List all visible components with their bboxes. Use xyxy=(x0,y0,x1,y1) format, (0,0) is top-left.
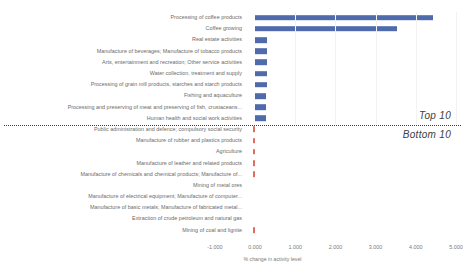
x-axis-label: % change in activity level xyxy=(0,256,465,262)
bar-row: Mining of coal and lignite xyxy=(0,225,465,236)
category-label: Manufacture of leather and related produ… xyxy=(0,160,248,167)
bar-negative xyxy=(253,138,255,144)
bar-positive xyxy=(255,15,433,21)
top-bottom-divider xyxy=(4,125,461,126)
category-label: Fishing and aquaculture xyxy=(0,92,248,99)
x-axis-label-text: % change in activity level xyxy=(244,256,302,262)
annotation-bottom-10: Bottom 10 xyxy=(403,129,451,140)
bar-row: Extraction of crude petroleum and natura… xyxy=(0,213,465,224)
bar-row: Processing and preserving of meat and pr… xyxy=(0,102,465,113)
bar-row: Manufacture of rubber and plastics produ… xyxy=(0,135,465,146)
bar-row: Arts, entertainment and recreation; Othe… xyxy=(0,57,465,68)
category-label: Manufacture of beverages; Manufacture of… xyxy=(0,48,248,55)
gridline xyxy=(335,12,336,124)
bar-row: Processing of grain mill products, starc… xyxy=(0,79,465,90)
category-label: Manufacture of rubber and plastics produ… xyxy=(0,137,248,144)
bar-row: Real estate activities xyxy=(0,34,465,45)
x-axis: % change in activity level -1.0000.0001.… xyxy=(0,244,465,278)
category-label: Mining of metal ores xyxy=(0,182,248,189)
bar-row: Processing of coffee products xyxy=(0,12,465,23)
bar-row: Manufacture of beverages; Manufacture of… xyxy=(0,46,465,57)
bar-positive xyxy=(255,115,266,121)
category-label: Mining of coal and lignite xyxy=(0,227,248,234)
category-label: Manufacture of basic metals; Manufacture… xyxy=(0,204,248,211)
bar-rows: Processing of coffee productsCoffee grow… xyxy=(0,12,465,236)
gridline xyxy=(376,12,377,124)
bar-positive xyxy=(255,48,267,54)
bar-row: Manufacture of basic metals; Manufacture… xyxy=(0,202,465,213)
gridline xyxy=(416,12,417,124)
category-label: Manufacture of electrical equipment; Man… xyxy=(0,193,248,200)
bar-row: Manufacture of chemicals and chemical pr… xyxy=(0,169,465,180)
x-tick-label: 3.000 xyxy=(369,244,383,250)
bar-positive xyxy=(255,93,266,99)
bar-positive xyxy=(255,104,266,110)
category-label: Coffee growing xyxy=(0,25,248,32)
bar-positive xyxy=(255,37,267,43)
category-label: Agriculture xyxy=(0,148,248,155)
category-label: Public administration and defence; compu… xyxy=(0,126,248,133)
category-label: Extraction of crude petroleum and natura… xyxy=(0,215,248,222)
category-label: Processing and preserving of meat and pr… xyxy=(0,104,248,111)
gridline xyxy=(456,12,457,124)
category-label: Manufacture of chemicals and chemical pr… xyxy=(0,171,248,178)
bar-row: Fishing and aquaculture xyxy=(0,90,465,101)
x-tick-label: 4.000 xyxy=(409,244,423,250)
bar-row: Manufacture of electrical equipment; Man… xyxy=(0,191,465,202)
category-label: Processing of grain mill products, starc… xyxy=(0,81,248,88)
bar-negative xyxy=(253,171,255,177)
annotation-top-10: Top 10 xyxy=(419,110,451,121)
bar-negative xyxy=(253,160,255,166)
category-label: Arts, entertainment and recreation; Othe… xyxy=(0,59,248,66)
bar-negative xyxy=(253,127,255,133)
gridline xyxy=(295,12,296,124)
bar-row: Human health and social work activities xyxy=(0,113,465,124)
bar-row: Coffee growing xyxy=(0,23,465,34)
bar-negative xyxy=(253,149,255,155)
bar-negative xyxy=(253,227,255,233)
bar-positive xyxy=(255,60,267,66)
category-label: Processing of coffee products xyxy=(0,14,248,21)
bar-chart: Processing of coffee productsCoffee grow… xyxy=(0,0,465,278)
bar-positive xyxy=(255,82,267,88)
bar-row: Agriculture xyxy=(0,146,465,157)
bar-row: Manufacture of leather and related produ… xyxy=(0,157,465,168)
plot-area: Processing of coffee productsCoffee grow… xyxy=(0,0,465,278)
category-label: Real estate activities xyxy=(0,36,248,43)
x-tick-label: 5.000 xyxy=(449,244,463,250)
x-tick-label: 2.000 xyxy=(329,244,343,250)
x-tick-label: -1.000 xyxy=(207,244,222,250)
x-tick-label: 0.000 xyxy=(248,244,262,250)
bar-row: Water collection, treatment and supply xyxy=(0,68,465,79)
bar-positive xyxy=(255,71,267,77)
category-label: Human health and social work activities xyxy=(0,115,248,122)
x-tick-label: 1.000 xyxy=(288,244,302,250)
bar-row: Mining of metal ores xyxy=(0,180,465,191)
category-label: Water collection, treatment and supply xyxy=(0,70,248,77)
